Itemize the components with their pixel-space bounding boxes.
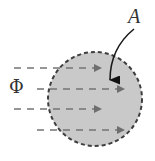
flux-label: Φ (9, 76, 24, 97)
flux-diagram: Φ A (0, 0, 155, 161)
area-disk (48, 52, 142, 146)
area-label: A (128, 5, 140, 28)
